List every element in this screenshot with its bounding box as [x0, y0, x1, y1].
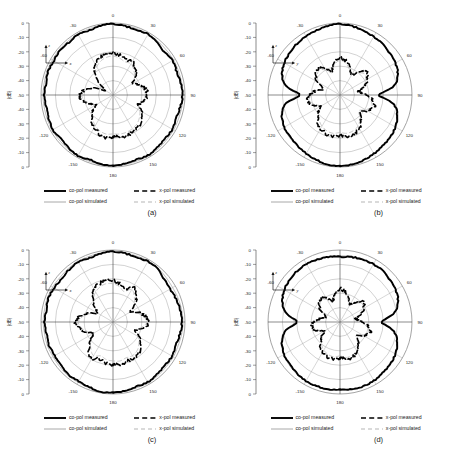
- svg-text:-50: -50: [244, 320, 251, 325]
- svg-text:-10: -10: [244, 262, 251, 267]
- svg-text:-30: -30: [18, 64, 25, 69]
- legend-c: co-pol measuredx-pol measuredco-pol simu…: [26, 412, 212, 436]
- svg-text:-50: -50: [18, 320, 25, 325]
- svg-text:-30: -30: [296, 250, 303, 255]
- svg-text:-150: -150: [295, 162, 304, 167]
- svg-text:90: 90: [417, 320, 422, 325]
- svg-text:-30: -30: [18, 291, 25, 296]
- inset-horizontal-axis-label: x: [69, 288, 72, 293]
- legend-label: co-pol simulated: [69, 426, 107, 431]
- svg-text:-20: -20: [244, 363, 251, 368]
- svg-text:-60: -60: [267, 53, 274, 58]
- svg-text:60: 60: [180, 280, 185, 285]
- svg-text:-60: -60: [41, 53, 48, 58]
- legend-entry-xpol-simulated: x-pol simulated: [361, 199, 439, 205]
- svg-text:-30: -30: [18, 122, 25, 127]
- polar-chart-c: 0-10-20-30-40-50-40-30-20-100(dB)0306090…: [0, 227, 226, 413]
- polar-grid: [268, 23, 412, 167]
- svg-text:150: 150: [376, 389, 384, 394]
- legend-swatch-copol-simulated: [271, 199, 293, 205]
- panel-caption-b: (b): [227, 208, 453, 217]
- svg-text:-30: -30: [70, 250, 77, 255]
- legend-label: co-pol simulated: [69, 199, 107, 204]
- radial-axis-ticks: 0-10-20-30-40-50-40-30-20-100(dB): [234, 21, 256, 170]
- svg-text:-20: -20: [18, 50, 25, 55]
- svg-text:-60: -60: [41, 280, 48, 285]
- figure-panel-grid: 0-10-20-30-40-50-40-30-20-100(dB)0306090…: [0, 0, 453, 454]
- legend-d: co-pol measuredx-pol measuredco-pol simu…: [253, 412, 439, 436]
- svg-text:-30: -30: [70, 23, 77, 28]
- radial-axis-label: (dB): [234, 317, 239, 326]
- svg-text:60: 60: [180, 53, 185, 58]
- legend-row: co-pol measuredx-pol measured: [26, 412, 212, 423]
- legend-swatch-xpol-measured: [134, 188, 156, 194]
- radial-axis-ticks: 0-10-20-30-40-50-40-30-20-100(dB): [234, 248, 256, 397]
- svg-text:120: 120: [179, 133, 187, 138]
- svg-text:-120: -120: [39, 360, 48, 365]
- legend-label: x-pol measured: [159, 188, 195, 193]
- legend-label: co-pol measured: [296, 415, 335, 420]
- polar-grid: [41, 23, 185, 167]
- polar-grid: [268, 250, 412, 394]
- svg-text:-40: -40: [18, 334, 25, 339]
- svg-text:120: 120: [405, 360, 413, 365]
- legend-label: x-pol measured: [159, 415, 195, 420]
- legend-entry-copol-measured: co-pol measured: [253, 188, 361, 194]
- svg-text:30: 30: [377, 23, 382, 28]
- legend-label: x-pol measured: [386, 188, 422, 193]
- legend-entry-xpol-measured: x-pol measured: [361, 415, 439, 421]
- trace-xpol-measured: [74, 279, 149, 366]
- legend-entry-copol-simulated: co-pol simulated: [253, 426, 361, 432]
- inset-horizontal-axis-label: y: [295, 61, 299, 66]
- svg-text:30: 30: [151, 23, 156, 28]
- svg-text:-30: -30: [18, 349, 25, 354]
- inset-vertical-axis-label: z: [274, 270, 277, 275]
- legend-swatch-copol-measured: [271, 188, 293, 194]
- polar-chart-b: 0-10-20-30-40-50-40-30-20-100(dB)0306090…: [227, 0, 453, 186]
- svg-text:-30: -30: [244, 349, 251, 354]
- svg-text:-150: -150: [295, 389, 304, 394]
- panel-caption-c: (c): [0, 435, 226, 444]
- legend-row: co-pol simulatedx-pol simulated: [253, 423, 439, 434]
- panel-caption-text: (d): [296, 435, 383, 444]
- svg-text:-40: -40: [244, 107, 251, 112]
- legend-row: co-pol simulatedx-pol simulated: [26, 423, 212, 434]
- legend-swatch-xpol-measured: [361, 188, 383, 194]
- legend-row: co-pol measuredx-pol measured: [253, 412, 439, 423]
- svg-text:30: 30: [377, 250, 382, 255]
- svg-text:-40: -40: [244, 334, 251, 339]
- svg-text:-150: -150: [69, 389, 78, 394]
- legend-label: x-pol simulated: [159, 426, 194, 431]
- legend-entry-xpol-measured: x-pol measured: [134, 188, 212, 194]
- svg-text:-120: -120: [266, 133, 275, 138]
- legend-swatch-copol-simulated: [271, 426, 293, 432]
- legend-swatch-copol-measured: [44, 415, 66, 421]
- svg-text:0: 0: [338, 240, 341, 245]
- panel-caption-text: (a): [69, 208, 156, 217]
- svg-text:-50: -50: [18, 93, 25, 98]
- svg-text:-30: -30: [296, 23, 303, 28]
- svg-text:-10: -10: [244, 377, 251, 382]
- svg-text:180: 180: [109, 173, 117, 178]
- svg-text:-40: -40: [18, 78, 25, 83]
- legend-label: co-pol simulated: [296, 199, 334, 204]
- svg-text:90: 90: [417, 93, 422, 98]
- radial-axis-label: (dB): [7, 90, 12, 99]
- polar-plot-panel-c: 0-10-20-30-40-50-40-30-20-100(dB)0306090…: [0, 227, 226, 454]
- svg-text:-60: -60: [267, 280, 274, 285]
- svg-text:180: 180: [109, 400, 117, 405]
- svg-text:-120: -120: [39, 133, 48, 138]
- legend-entry-copol-simulated: co-pol simulated: [26, 199, 134, 205]
- inset-vertical-axis-label: z: [47, 270, 50, 275]
- inset-vertical-axis-label: z: [274, 43, 277, 48]
- svg-text:-20: -20: [244, 277, 251, 282]
- legend-swatch-xpol-simulated: [361, 199, 383, 205]
- legend-label: co-pol measured: [69, 415, 108, 420]
- polar-chart-a: 0-10-20-30-40-50-40-30-20-100(dB)0306090…: [0, 0, 226, 186]
- legend-label: co-pol measured: [296, 188, 335, 193]
- svg-text:-20: -20: [244, 136, 251, 141]
- radial-axis-label: (dB): [7, 317, 12, 326]
- legend-label: x-pol simulated: [386, 199, 421, 204]
- svg-text:-30: -30: [244, 122, 251, 127]
- polar-plot-panel-a: 0-10-20-30-40-50-40-30-20-100(dB)0306090…: [0, 0, 226, 227]
